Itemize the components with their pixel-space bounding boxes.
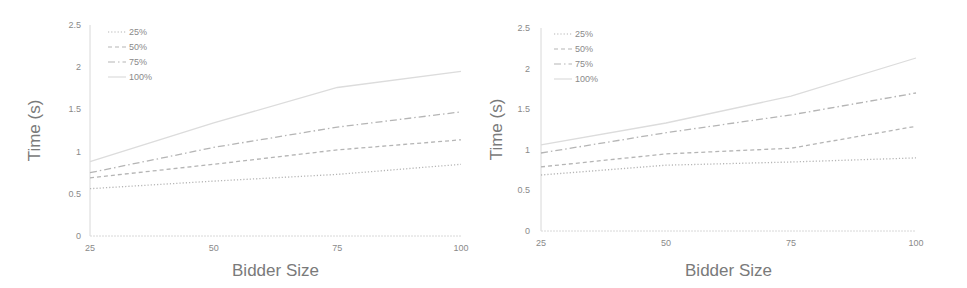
- y-tick-label: 0: [525, 226, 530, 236]
- x-tick-label: 50: [661, 238, 671, 248]
- x-axis-title: Bidder Size: [232, 261, 319, 280]
- y-tick-label: 0: [76, 231, 81, 241]
- series-line-75pct: [541, 93, 916, 153]
- series-line-25pct: [90, 164, 461, 188]
- y-tick-label: 2: [525, 64, 530, 74]
- y-tick-label: 0.5: [517, 185, 530, 195]
- y-tick-label: 1: [76, 147, 81, 157]
- y-axis-title: Time (s): [487, 99, 506, 161]
- y-tick-label: 2: [76, 62, 81, 72]
- legend-label: 75%: [129, 57, 147, 67]
- y-tick-label: 1.5: [68, 104, 81, 114]
- y-tick-label: 1.5: [517, 104, 530, 114]
- x-tick-label: 75: [786, 238, 796, 248]
- chart-right-svg: 00.511.522.5255075100Time (s)Bidder Size…: [484, 0, 967, 288]
- chart-left: 00.511.522.5255075100Time (s)Bidder Size…: [0, 0, 483, 288]
- legend-label: 100%: [575, 74, 598, 84]
- x-tick-label: 50: [209, 243, 219, 253]
- chart-right: 00.511.522.5255075100Time (s)Bidder Size…: [484, 0, 967, 288]
- series-line-100pct: [90, 71, 461, 161]
- legend-label: 25%: [575, 29, 593, 39]
- x-tick-label: 100: [453, 243, 468, 253]
- x-tick-label: 25: [536, 238, 546, 248]
- legend-label: 75%: [575, 59, 593, 69]
- legend-label: 50%: [575, 44, 593, 54]
- legend-label: 50%: [129, 42, 147, 52]
- y-tick-label: 1: [525, 145, 530, 155]
- y-axis-title: Time (s): [25, 100, 44, 162]
- x-tick-label: 75: [332, 243, 342, 253]
- x-axis-title: Bidder Size: [685, 261, 772, 280]
- y-tick-label: 0.5: [68, 189, 81, 199]
- x-tick-label: 100: [908, 238, 923, 248]
- series-line-100pct: [541, 58, 916, 145]
- legend-label: 25%: [129, 27, 147, 37]
- series-line-50pct: [541, 126, 916, 167]
- y-tick-label: 2.5: [517, 23, 530, 33]
- legend-label: 100%: [129, 72, 152, 82]
- x-tick-label: 25: [85, 243, 95, 253]
- series-line-75pct: [90, 112, 461, 173]
- chart-left-svg: 00.511.522.5255075100Time (s)Bidder Size…: [0, 0, 483, 288]
- series-line-50pct: [90, 140, 461, 178]
- y-tick-label: 2.5: [68, 20, 81, 30]
